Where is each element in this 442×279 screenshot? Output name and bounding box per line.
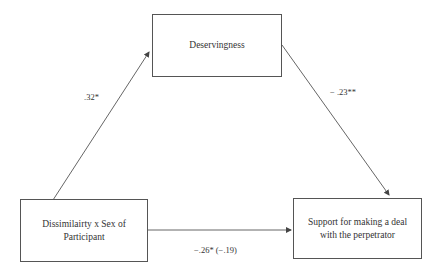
outcome-box: Support for making a deal with the perpe… — [293, 198, 422, 259]
path-a-arrow — [53, 52, 149, 200]
mediator-box: Deservingness — [152, 14, 282, 77]
path-a-coefficient: .32* — [84, 92, 99, 102]
path-b-coefficient: − .23** — [330, 87, 356, 97]
predictor-label: Dissimilairty x Sex of Participant — [37, 218, 131, 244]
path-c-coefficient: −.26* (−.19) — [194, 245, 237, 255]
outcome-label: Support for making a deal with the perpe… — [300, 216, 415, 242]
path-b-arrow — [282, 45, 389, 195]
predictor-box: Dissimilairty x Sex of Participant — [20, 199, 148, 262]
mediator-label: Deservingness — [189, 39, 244, 52]
